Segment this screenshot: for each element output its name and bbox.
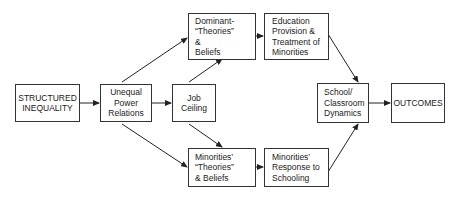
- node-label: OUTCOMES: [393, 98, 442, 109]
- node-label: Beliefs: [195, 47, 255, 58]
- node-structured-inequality: STRUCTURED INEQUALITY: [15, 84, 80, 122]
- node-label: School/: [324, 87, 368, 98]
- node-unequal-power-relations: Unequal Power Relations: [100, 84, 152, 122]
- node-label: Response to: [272, 162, 328, 173]
- edge-response-school: [328, 124, 358, 172]
- node-label: Minorities’: [272, 152, 328, 163]
- edge-job-dominant: [189, 59, 222, 82]
- node-label: Schooling: [272, 173, 328, 184]
- node-dominant-theories: Dominant- “Theories” & Beliefs: [188, 13, 256, 60]
- node-label: Provision &: [272, 26, 328, 37]
- node-label: Education: [272, 16, 328, 27]
- node-label: “Theories”: [195, 162, 255, 173]
- node-label: &: [195, 37, 255, 48]
- node-education-provision: Education Provision & Treatment of Minor…: [264, 13, 329, 60]
- node-label: Treatment of: [272, 37, 328, 48]
- node-label: Ceiling: [181, 103, 207, 114]
- edge-power-dominant: [122, 38, 187, 82]
- node-label: STRUCTURED: [18, 93, 77, 104]
- node-minorities-theories: Minorities’ “Theories” & Beliefs: [188, 148, 256, 187]
- node-job-ceiling: Job Ceiling: [172, 84, 216, 122]
- node-label: Dynamics: [324, 108, 368, 119]
- edge-power-minorities: [122, 124, 187, 167]
- node-label: Dominant-: [195, 16, 255, 27]
- node-outcomes: OUTCOMES: [391, 83, 445, 123]
- edge-education-school: [328, 34, 358, 82]
- node-label: Unequal: [110, 87, 142, 98]
- node-label: Minorities’: [195, 152, 255, 163]
- node-label: Minorities: [272, 47, 328, 58]
- node-label: Classroom: [324, 98, 368, 109]
- node-minorities-response: Minorities’ Response to Schooling: [264, 148, 329, 187]
- node-label: Relations: [108, 108, 143, 119]
- node-label: Power: [114, 98, 138, 109]
- node-label: “Theories”: [195, 26, 255, 37]
- node-label: Job: [187, 93, 201, 104]
- edge-job-minorities: [189, 124, 222, 147]
- node-label: & Beliefs: [195, 173, 255, 184]
- node-label: INEQUALITY: [22, 103, 73, 114]
- node-school-classroom-dynamics: School/ Classroom Dynamics: [317, 83, 369, 123]
